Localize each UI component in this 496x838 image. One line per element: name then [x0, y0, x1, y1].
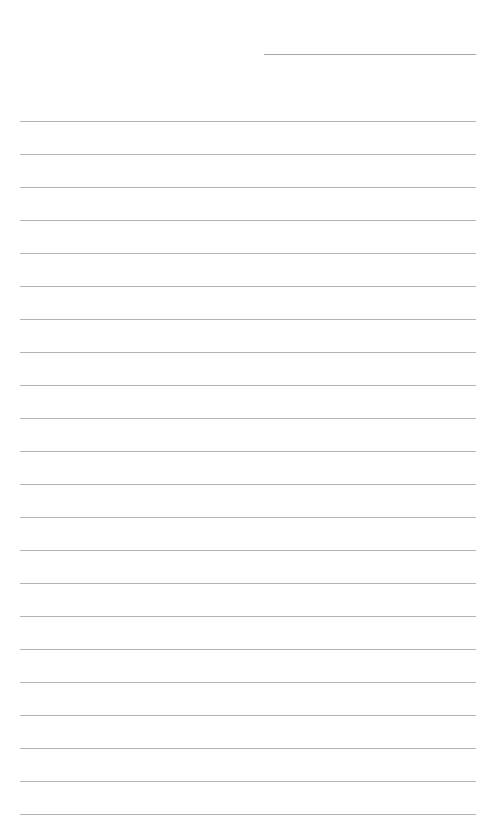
lined-paper-page	[0, 0, 496, 838]
ruled-line	[20, 187, 476, 188]
header-name-line	[264, 54, 476, 55]
ruled-line	[20, 220, 476, 221]
ruled-line	[20, 748, 476, 749]
ruled-line	[20, 682, 476, 683]
ruled-line	[20, 550, 476, 551]
ruled-line	[20, 517, 476, 518]
ruled-line	[20, 352, 476, 353]
ruled-line	[20, 286, 476, 287]
ruled-line	[20, 484, 476, 485]
ruled-line	[20, 154, 476, 155]
ruled-line	[20, 253, 476, 254]
ruled-line	[20, 814, 476, 815]
ruled-line	[20, 715, 476, 716]
ruled-line	[20, 649, 476, 650]
ruled-line	[20, 418, 476, 419]
ruled-line	[20, 781, 476, 782]
ruled-line	[20, 385, 476, 386]
ruled-line	[20, 583, 476, 584]
ruled-line	[20, 451, 476, 452]
ruled-line	[20, 319, 476, 320]
ruled-line	[20, 121, 476, 122]
ruled-line	[20, 616, 476, 617]
